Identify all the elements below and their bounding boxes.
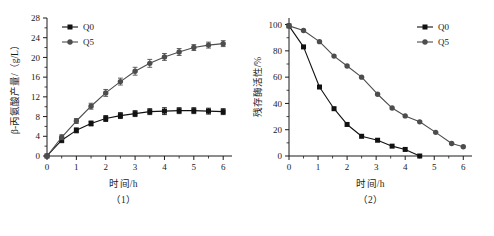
chart-1-xaxis-title: 时间/h bbox=[0, 176, 247, 190]
legend-label: Q0 bbox=[438, 22, 449, 32]
marker-square-Q0 bbox=[345, 122, 350, 127]
y-tick-label: 0 bbox=[278, 151, 283, 161]
chart-2-yaxis-title: 残存酶活性/% bbox=[252, 57, 263, 118]
marker-square-Q0 bbox=[301, 44, 306, 49]
marker-circle-Q5 bbox=[449, 141, 454, 146]
x-tick-label: 3 bbox=[133, 162, 138, 172]
marker-circle-Q5 bbox=[417, 119, 422, 124]
marker-circle-Q5 bbox=[331, 53, 336, 58]
marker-circle-Q5 bbox=[402, 113, 407, 118]
marker-circle-Q5 bbox=[176, 49, 181, 54]
legend-marker-square bbox=[423, 25, 428, 30]
marker-square-Q0 bbox=[191, 108, 196, 113]
marker-square-Q0 bbox=[162, 109, 167, 114]
marker-square-Q0 bbox=[417, 154, 422, 159]
x-tick-label: 2 bbox=[345, 162, 350, 172]
marker-square-Q0 bbox=[74, 128, 79, 133]
marker-circle-Q5 bbox=[317, 39, 322, 44]
marker-circle-Q5 bbox=[103, 90, 108, 95]
marker-square-Q0 bbox=[221, 109, 226, 114]
marker-square-Q0 bbox=[375, 138, 380, 143]
legend-marker-circle bbox=[67, 39, 72, 44]
marker-square-Q0 bbox=[89, 121, 94, 126]
x-tick-label: 3 bbox=[374, 162, 379, 172]
marker-circle-Q5 bbox=[433, 130, 438, 135]
marker-circle-Q5 bbox=[59, 135, 64, 140]
marker-circle-Q5 bbox=[118, 79, 123, 84]
marker-square-Q0 bbox=[332, 106, 337, 111]
marker-square-Q0 bbox=[118, 113, 123, 118]
marker-square-Q0 bbox=[147, 109, 152, 114]
chart-1-plot: 04812162024280123456β-丙氨酸产量/（g/L）Q0Q5 bbox=[0, 0, 247, 200]
marker-circle-Q5 bbox=[191, 45, 196, 50]
marker-circle-Q5 bbox=[132, 69, 137, 74]
y-tick-label: 40 bbox=[273, 99, 283, 109]
marker-circle-Q5 bbox=[220, 41, 225, 46]
marker-square-Q0 bbox=[359, 134, 364, 139]
x-tick-label: 5 bbox=[432, 162, 437, 172]
x-tick-label: 6 bbox=[461, 162, 466, 172]
y-tick-label: 28 bbox=[31, 13, 41, 23]
marker-circle-Q5 bbox=[359, 74, 364, 79]
y-tick-label: 80 bbox=[273, 46, 283, 56]
marker-circle-Q5 bbox=[389, 105, 394, 110]
legend-label: Q5 bbox=[83, 37, 94, 47]
y-tick-label: 100 bbox=[269, 20, 283, 30]
x-tick-label: 6 bbox=[221, 162, 226, 172]
chart-panel-1: 04812162024280123456β-丙氨酸产量/（g/L）Q0Q5 时间… bbox=[0, 0, 247, 236]
marker-circle-Q5 bbox=[147, 61, 152, 66]
y-tick-label: 4 bbox=[36, 131, 41, 141]
y-tick-label: 24 bbox=[31, 33, 41, 43]
marker-circle-Q5 bbox=[344, 63, 349, 68]
chart-1-yaxis-title: β-丙氨酸产量/（g/L） bbox=[9, 40, 20, 134]
marker-circle-Q5 bbox=[286, 23, 291, 28]
marker-circle-Q5 bbox=[461, 144, 466, 149]
marker-circle-Q5 bbox=[74, 118, 79, 123]
marker-circle-Q5 bbox=[88, 104, 93, 109]
y-tick-label: 16 bbox=[31, 72, 41, 82]
marker-circle-Q5 bbox=[162, 54, 167, 59]
marker-square-Q0 bbox=[403, 147, 408, 152]
y-tick-label: 20 bbox=[273, 125, 283, 135]
chart-2-xaxis-title: 时间/h bbox=[247, 176, 494, 190]
figure-container: 04812162024280123456β-丙氨酸产量/（g/L）Q0Q5 时间… bbox=[0, 0, 494, 236]
marker-square-Q0 bbox=[206, 109, 211, 114]
marker-square-Q0 bbox=[317, 85, 322, 90]
marker-square-Q0 bbox=[133, 111, 138, 116]
x-tick-label: 5 bbox=[192, 162, 197, 172]
legend-label: Q0 bbox=[83, 22, 94, 32]
marker-square-Q0 bbox=[390, 144, 395, 149]
chart-1-caption: （1） bbox=[0, 192, 247, 206]
marker-circle-Q5 bbox=[44, 153, 49, 158]
y-tick-label: 12 bbox=[31, 92, 40, 102]
marker-square-Q0 bbox=[177, 108, 182, 113]
legend-marker-square bbox=[68, 25, 73, 30]
y-tick-label: 0 bbox=[36, 151, 41, 161]
y-tick-label: 20 bbox=[31, 53, 41, 63]
marker-square-Q0 bbox=[103, 116, 108, 121]
marker-circle-Q5 bbox=[301, 28, 306, 33]
x-tick-label: 1 bbox=[74, 162, 79, 172]
legend-label: Q5 bbox=[438, 37, 449, 47]
x-tick-label: 0 bbox=[287, 162, 292, 172]
x-tick-label: 1 bbox=[316, 162, 321, 172]
legend-marker-circle bbox=[422, 39, 427, 44]
chart-panel-2: 0204060801000123456残存酶活性/%Q0Q5 时间/h （2） bbox=[247, 0, 494, 236]
y-tick-label: 60 bbox=[273, 72, 283, 82]
x-tick-label: 4 bbox=[162, 162, 167, 172]
chart-2-caption: （2） bbox=[247, 192, 494, 206]
marker-circle-Q5 bbox=[206, 42, 211, 47]
y-tick-label: 8 bbox=[36, 112, 41, 122]
marker-circle-Q5 bbox=[375, 92, 380, 97]
x-tick-label: 2 bbox=[103, 162, 108, 172]
series-line-Q0 bbox=[289, 26, 420, 156]
series-line-Q5 bbox=[47, 44, 223, 156]
chart-2-plot: 0204060801000123456残存酶活性/%Q0Q5 bbox=[247, 0, 494, 200]
x-tick-label: 4 bbox=[403, 162, 408, 172]
series-line-Q0 bbox=[47, 111, 223, 156]
x-tick-label: 0 bbox=[45, 162, 50, 172]
